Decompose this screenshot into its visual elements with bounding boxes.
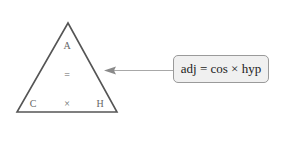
triangle-label-a: A bbox=[63, 41, 70, 51]
formula-callout-box: adj = cos × hyp bbox=[173, 55, 269, 83]
triangle-equals-sign: = bbox=[64, 70, 70, 80]
triangle-times-sign: × bbox=[64, 99, 70, 109]
formula-text: adj = cos × hyp bbox=[181, 61, 261, 77]
triangle-label-h: H bbox=[96, 99, 103, 109]
triangle-label-c: C bbox=[30, 99, 37, 109]
